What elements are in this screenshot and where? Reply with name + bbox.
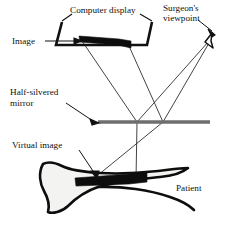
label-computer-display: Computer display	[70, 5, 136, 15]
ar-surgery-optical-diagram: Computer display Surgeon's viewpoint Ima…	[0, 0, 228, 227]
ray-mirror-left-to-eye	[137, 41, 209, 122]
label-surgeons-viewpoint-line1: Surgeon's	[163, 3, 199, 13]
ray-lines-group	[82, 41, 209, 180]
leader-surgeons-viewpoint	[198, 20, 212, 31]
arrowhead-half-silvered-mirror	[90, 119, 99, 125]
ray-display-left-to-mirror	[82, 41, 137, 122]
label-patient: Patient	[176, 183, 202, 193]
label-virtual-image: Virtual image	[12, 140, 62, 150]
sightline-right-through-mirror-to-bone	[136, 122, 137, 180]
label-image: Image	[12, 36, 35, 46]
label-half-silvered-mirror-line2: mirror	[10, 98, 33, 108]
leader-computer-display-left	[62, 14, 72, 21]
leader-lines-group	[45, 14, 215, 179]
label-half-silvered-mirror-line1: Half-silvered	[10, 87, 59, 97]
label-surgeons-viewpoint-line2: viewpoint	[163, 13, 200, 23]
ray-display-right-to-mirror	[129, 46, 163, 122]
leader-computer-display-right	[140, 14, 152, 21]
leader-half-silvered-mirror	[66, 103, 93, 121]
diagram-canvas: Computer display Surgeon's viewpoint Ima…	[0, 0, 228, 227]
ray-mirror-right-to-eye	[163, 43, 209, 122]
